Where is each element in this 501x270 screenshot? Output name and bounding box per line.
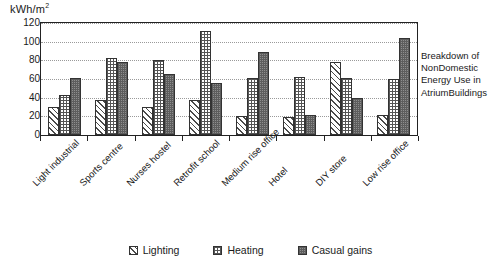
bar-casual — [211, 83, 222, 135]
y-axis-tick-label: 100 — [4, 37, 40, 47]
bar-groups — [41, 23, 417, 135]
y-axis-tick-label: 80 — [4, 55, 40, 65]
side-caption-line: NonDomestic — [421, 62, 501, 74]
legend-swatch-lighting — [129, 246, 138, 255]
bar-group — [323, 23, 370, 135]
chart-legend: LightingHeatingCasual gains — [0, 244, 501, 256]
x-axis-label: Sports centre — [77, 140, 125, 188]
y-axis-tick-label: 0 — [4, 130, 40, 140]
bar-heating — [388, 79, 399, 135]
bar-casual — [399, 38, 410, 135]
bar-lighting — [189, 100, 200, 135]
x-axis-label: Retrofit school — [171, 137, 222, 188]
bar-heating — [200, 31, 211, 135]
legend-label: Lighting — [143, 244, 180, 256]
bar-lighting — [330, 62, 341, 135]
side-caption-line: Energy Use in — [421, 74, 501, 86]
side-caption-line: AtriumBuildings — [421, 87, 501, 99]
bar-casual — [117, 62, 128, 135]
bar-casual — [258, 52, 269, 135]
bar-casual — [352, 98, 363, 135]
y-axis-tick-label: 120 — [4, 18, 40, 28]
bar-group — [276, 23, 323, 135]
x-axis-tick-mark — [418, 136, 419, 141]
bar-lighting — [142, 107, 153, 135]
bar-chart: kWh/m2 020406080100120 Light industrialS… — [0, 0, 501, 270]
y-axis-tick-label: 60 — [4, 74, 40, 84]
legend-item: Lighting — [129, 244, 180, 256]
side-caption-line: Breakdown of — [421, 50, 501, 62]
x-axis-tick-mark — [87, 136, 88, 141]
bar-heating — [294, 77, 305, 135]
bar-casual — [164, 74, 175, 135]
bar-group — [41, 23, 88, 135]
bar-lighting — [236, 116, 247, 135]
bar-heating — [247, 78, 258, 135]
bar-lighting — [48, 107, 59, 135]
bar-lighting — [377, 115, 388, 135]
bar-group — [182, 23, 229, 135]
y-axis: 020406080100120 — [0, 22, 40, 136]
legend-item: Heating — [213, 244, 263, 256]
x-axis-tick-mark — [229, 136, 230, 141]
x-axis-tick-mark — [182, 136, 183, 141]
side-caption: Breakdown ofNonDomesticEnergy Use inAtri… — [421, 50, 501, 99]
x-axis-tick-mark — [40, 136, 41, 141]
bar-group — [229, 23, 276, 135]
x-axis-label: DIY store — [313, 153, 349, 189]
x-axis-ticks — [40, 136, 418, 141]
x-axis-label: Hotel — [266, 165, 289, 188]
legend-label: Heating — [227, 244, 263, 256]
y-axis-tick-label: 20 — [4, 111, 40, 121]
legend-swatch-casual — [298, 246, 307, 255]
bar-casual — [305, 115, 316, 135]
bar-heating — [106, 58, 117, 135]
legend-item: Casual gains — [298, 244, 373, 256]
legend-swatch-heating — [213, 246, 222, 255]
y-axis-unit-label: kWh/m2 — [10, 2, 49, 15]
y-axis-tick-label: 40 — [4, 93, 40, 103]
bar-group — [88, 23, 135, 135]
bar-group — [135, 23, 182, 135]
bar-casual — [70, 78, 81, 135]
bar-heating — [153, 60, 164, 135]
bar-lighting — [283, 117, 294, 135]
x-axis-tick-mark — [324, 136, 325, 141]
x-axis-label: Nurses hostel — [124, 139, 173, 188]
legend-label: Casual gains — [312, 244, 373, 256]
bar-lighting — [95, 100, 106, 135]
x-axis-tick-mark — [371, 136, 372, 141]
x-axis-tick-mark — [135, 136, 136, 141]
bar-heating — [59, 95, 70, 135]
bar-group — [370, 23, 417, 135]
x-axis-label: Light industrial — [30, 137, 81, 188]
x-axis-label: Low rise office — [360, 138, 411, 189]
bar-heating — [341, 78, 352, 135]
